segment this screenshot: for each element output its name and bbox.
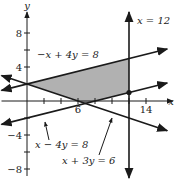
x-tick-label: 14: [140, 104, 153, 115]
y-tick-label: −4: [7, 130, 22, 141]
pointer-x-plus-3y: [99, 118, 112, 155]
y-tick-label: 4: [16, 62, 22, 73]
feasible-region-graph: xy61484−4−8−x + 4y = 8x = 12x − 4y = 8x …: [0, 0, 178, 182]
y-axis-label: y: [23, 0, 30, 11]
label-neg-x-plus-4y-eq-8: −x + 4y = 8: [37, 49, 99, 60]
label-x-minus-4y-eq-8: x − 4y = 8: [35, 139, 89, 150]
x-tick-label: 6: [75, 104, 81, 115]
x-axis-label: x: [168, 96, 174, 107]
y-tick-label: −8: [7, 164, 22, 175]
vertex-point: [126, 90, 131, 95]
y-tick-label: 8: [16, 28, 22, 39]
label-x-eq-12: x = 12: [137, 15, 170, 26]
label-x-plus-3y-eq-6: x + 3y = 6: [62, 155, 116, 166]
pointer-x-minus-4y: [45, 122, 49, 140]
